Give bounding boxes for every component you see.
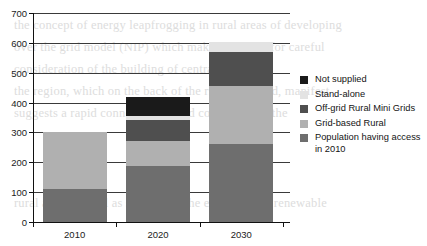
bar-2030 bbox=[209, 42, 273, 222]
legend-item: Population having access in 2010 bbox=[300, 132, 424, 154]
y-axis-label: 400 bbox=[1, 97, 27, 108]
legend-item: Off-grid Rural Mini Grids bbox=[300, 103, 424, 114]
legend-item: Stand-alone bbox=[300, 89, 424, 100]
x-axis-tick bbox=[33, 223, 34, 227]
y-axis-label: 0 bbox=[1, 217, 27, 228]
legend-swatch-icon bbox=[300, 91, 308, 99]
bar-2010 bbox=[43, 132, 107, 222]
y-axis-label: 100 bbox=[1, 187, 27, 198]
y-axis-label: 200 bbox=[1, 157, 27, 168]
legend-label: Grid-based Rural bbox=[315, 118, 386, 129]
y-axis-line bbox=[33, 13, 34, 223]
legend-label: Off-grid Rural Mini Grids bbox=[315, 103, 415, 114]
x-axis-tick bbox=[200, 223, 201, 227]
legend-item: Grid-based Rural bbox=[300, 118, 424, 129]
legend-label: Stand-alone bbox=[315, 89, 365, 100]
y-axis-label: 500 bbox=[1, 67, 27, 78]
legend-swatch-icon bbox=[300, 120, 308, 128]
legend-swatch-icon bbox=[300, 105, 308, 113]
bar-segment bbox=[126, 166, 190, 222]
y-axis-label: 300 bbox=[1, 127, 27, 138]
x-axis-label-2030: 2030 bbox=[201, 229, 281, 240]
bar-segment bbox=[126, 97, 190, 116]
x-axis-label-2020: 2020 bbox=[118, 229, 198, 240]
x-axis-tick bbox=[116, 223, 117, 227]
x-axis-line bbox=[33, 222, 290, 223]
y-gridline bbox=[33, 13, 290, 14]
legend-swatch-icon bbox=[300, 134, 308, 142]
bar-segment bbox=[126, 120, 190, 142]
bar-segment bbox=[43, 132, 107, 189]
bar-segment bbox=[209, 144, 273, 222]
bar-segment bbox=[209, 52, 273, 86]
bar-segment bbox=[209, 42, 273, 52]
bar-segment bbox=[43, 189, 107, 222]
y-axis-label: 700 bbox=[1, 8, 27, 19]
legend-label: Not supplied bbox=[315, 74, 367, 85]
x-axis-label-2010: 2010 bbox=[35, 229, 115, 240]
y-axis-label: 600 bbox=[1, 37, 27, 48]
x-axis-tick bbox=[283, 223, 284, 227]
legend-item: Not supplied bbox=[300, 74, 424, 85]
bar-2020 bbox=[126, 97, 190, 222]
bar-segment bbox=[209, 86, 273, 144]
legend-label: Population having access in 2010 bbox=[315, 132, 424, 154]
bar-segment bbox=[126, 141, 190, 165]
legend-swatch-icon bbox=[300, 76, 308, 84]
chart-legend: Not suppliedStand-aloneOff-grid Rural Mi… bbox=[300, 74, 424, 158]
